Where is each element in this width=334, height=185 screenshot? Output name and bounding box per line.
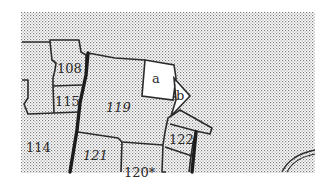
parcel-label-115: 115: [55, 94, 80, 109]
sublot-label-b: b: [176, 88, 184, 103]
parcel-label-119: 119: [106, 100, 131, 115]
boundary-108-115: [53, 85, 82, 86]
parcel-label-120: 120*: [124, 165, 156, 180]
parcel-label-121: 121: [83, 148, 108, 163]
boundary-121-120: [121, 142, 122, 172]
boundary-115-left: [53, 86, 54, 113]
sublot-label-a: a: [152, 71, 160, 86]
parcel-label-114: 114: [26, 140, 51, 155]
parcel-map: 108 115 119 114 121 120* 122 a b: [0, 0, 334, 185]
parcel-label-108: 108: [57, 61, 82, 76]
parcel-label-122: 122: [169, 132, 194, 147]
